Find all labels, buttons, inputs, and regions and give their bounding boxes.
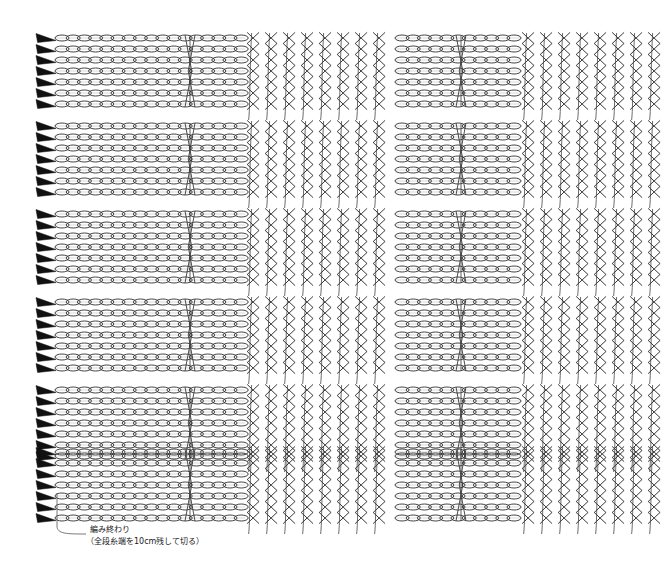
chain-band — [395, 123, 521, 195]
chain-band — [55, 35, 248, 107]
stitch-chart-svg: 編み終わり （全段糸端を10cm残して切る） — [0, 0, 668, 569]
chain-band — [395, 299, 521, 371]
chain-band — [395, 387, 521, 459]
annotation-line-1: 編み終わり — [90, 524, 130, 534]
crochet-chart-root: 編み終わり （全段糸端を10cm残して切る） — [0, 0, 668, 569]
chain-band — [55, 449, 248, 521]
chain-band — [55, 123, 248, 195]
annotation-line-2: （全段糸端を10cm残して切る） — [86, 536, 204, 546]
chain-band — [55, 387, 248, 459]
chain-band — [55, 299, 248, 371]
chain-band — [55, 211, 248, 283]
chain-band — [395, 35, 521, 107]
chain-band — [395, 449, 521, 521]
chain-band — [395, 211, 521, 283]
